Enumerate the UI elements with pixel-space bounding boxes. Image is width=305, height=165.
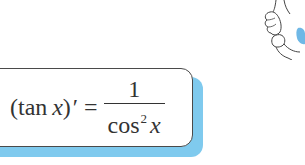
fraction-bar: [104, 103, 165, 104]
cartoon-hand-icon: [262, 0, 305, 60]
denominator: cos2x: [104, 107, 165, 137]
fraction: 1 cos2x: [104, 77, 165, 137]
prime-symbol: ′: [73, 94, 78, 120]
variable-x: x: [52, 94, 63, 120]
cos-function: cos: [108, 112, 140, 138]
derivative-formula: (tan x)′ = 1 cos2x: [10, 80, 165, 134]
equals-sign: =: [84, 94, 98, 121]
variable-x: x: [150, 112, 161, 138]
formula-lhs: (tan x)′: [10, 94, 80, 121]
numerator: 1: [122, 77, 146, 101]
exponent: 2: [141, 111, 148, 126]
close-paren: ): [63, 94, 71, 120]
tan-function: (tan: [10, 94, 52, 120]
